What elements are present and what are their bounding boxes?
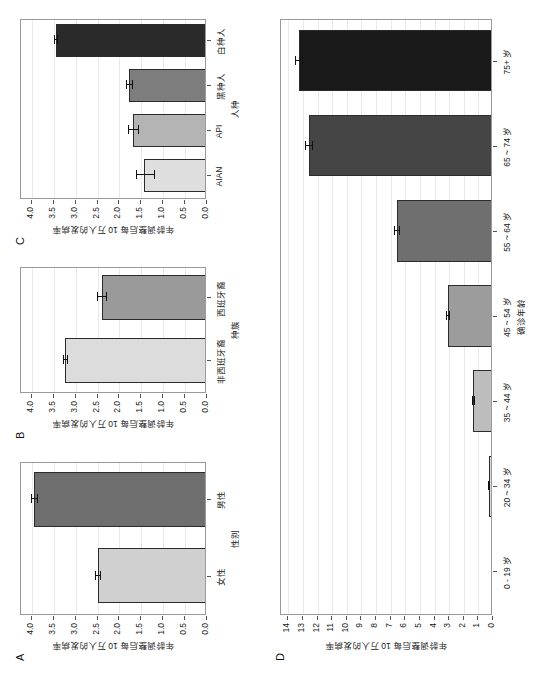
panel-b-plot-area <box>20 267 206 393</box>
y-tick <box>118 616 119 620</box>
panel-d-letter: D <box>274 653 286 661</box>
gridline <box>318 20 319 614</box>
y-tick <box>140 200 141 204</box>
y-tick <box>97 200 98 204</box>
gridline <box>32 463 33 614</box>
error-bar-cap <box>132 81 133 90</box>
error-bar-cap <box>305 141 306 150</box>
x-axis-title: 性别 <box>228 462 240 615</box>
error-bar <box>128 130 138 131</box>
x-axis-title: 人种 <box>228 19 240 199</box>
error-bar-cap <box>37 494 38 503</box>
x-tick <box>493 486 497 487</box>
rotated-figure-wrapper: A 0.00.51.01.52.02.53.03.54.0女性男性性别年龄调整后… <box>0 0 554 679</box>
error-bar-cap <box>128 126 129 135</box>
error-bar-cap <box>302 56 303 65</box>
bar <box>65 338 206 383</box>
x-tick <box>493 316 497 317</box>
error-bar-cap <box>100 571 101 580</box>
x-tick <box>207 361 211 362</box>
y-tick <box>162 616 163 620</box>
panel-c-letter: C <box>14 237 26 245</box>
x-tick-label: AIAN <box>214 154 224 199</box>
error-bar <box>305 145 312 146</box>
error-bar <box>97 297 107 298</box>
x-tick-label: 45 ~ 54 岁 <box>500 274 512 359</box>
gridline <box>347 20 348 614</box>
x-tick <box>493 61 497 62</box>
x-tick-label: 男性 <box>214 462 226 539</box>
y-tick <box>477 616 478 620</box>
panel-b-letter: B <box>14 431 26 439</box>
panel-b: B 0.00.51.01.52.02.53.03.54.0非西班牙裔西班牙裔种族… <box>14 261 250 439</box>
panel-a: A 0.00.51.01.52.02.53.03.54.0女性男性性别年龄调整后… <box>14 456 250 661</box>
panel-a-letter: A <box>14 653 26 661</box>
y-tick <box>118 394 119 398</box>
error-bar-cap <box>446 311 447 320</box>
x-tick-label: 35 ~ 44 岁 <box>500 360 512 445</box>
y-tick <box>97 616 98 620</box>
error-bar-cap <box>449 311 450 320</box>
error-bar-cap <box>295 56 296 65</box>
y-tick <box>360 616 361 620</box>
x-tick-label: 西班牙裔 <box>214 267 226 330</box>
panel-d: D 012345678910111213140 - 19 岁20 ~ 34 岁3… <box>274 13 536 661</box>
y-tick <box>434 616 435 620</box>
y-tick <box>97 394 98 398</box>
error-bar-cap <box>489 481 490 490</box>
y-tick <box>206 616 207 620</box>
y-axis-title: 年龄调整后每 10 万人的发病率 <box>20 419 206 431</box>
y-tick <box>162 200 163 204</box>
y-tick <box>75 200 76 204</box>
gridline <box>361 20 362 614</box>
error-bar-cap <box>31 494 32 503</box>
panel-d-plot-area <box>280 19 492 615</box>
y-tick <box>140 616 141 620</box>
gridline <box>303 20 304 614</box>
panel-c: C 0.00.51.01.52.02.53.03.54.0AIANAPI黑种人白… <box>14 13 250 245</box>
x-tick <box>207 86 211 87</box>
panel-a-plot-area <box>20 462 206 615</box>
y-tick <box>317 616 318 620</box>
y-tick <box>31 394 32 398</box>
bar <box>448 285 492 346</box>
y-tick <box>184 616 185 620</box>
error-bar-cap <box>138 126 139 135</box>
bar <box>299 30 492 91</box>
gridline <box>32 268 33 392</box>
x-axis-title: 确诊年龄 <box>514 19 526 615</box>
bar <box>129 69 206 101</box>
y-tick <box>184 200 185 204</box>
gridline <box>391 20 392 614</box>
y-tick <box>53 394 54 398</box>
x-tick-label: 0 - 19 岁 <box>500 530 512 615</box>
x-tick-label: 白种人 <box>214 19 226 64</box>
error-bar-cap <box>57 36 58 45</box>
x-tick <box>493 146 497 147</box>
bar <box>491 541 492 602</box>
y-tick <box>404 616 405 620</box>
y-tick <box>206 394 207 398</box>
error-bar-cap <box>394 226 395 235</box>
bar <box>133 114 206 146</box>
gridline <box>288 20 289 614</box>
bar <box>34 472 206 527</box>
error-bar-cap <box>95 571 96 580</box>
error-bar-cap <box>136 171 137 180</box>
figure-canvas: A 0.00.51.01.52.02.53.03.54.0女性男性性别年龄调整后… <box>0 0 554 679</box>
error-bar-cap <box>312 141 313 150</box>
bar <box>56 24 206 56</box>
y-tick <box>75 394 76 398</box>
y-tick <box>162 394 163 398</box>
y-tick <box>287 616 288 620</box>
panel-c-plot-area <box>20 19 206 199</box>
x-tick <box>207 41 211 42</box>
bar <box>102 275 206 320</box>
gridline <box>32 20 33 198</box>
error-bar-cap <box>63 356 64 365</box>
error-bar-cap <box>106 293 107 302</box>
bar <box>98 548 206 603</box>
error-bar-cap <box>474 396 475 405</box>
x-tick-label: 65 ~ 74 岁 <box>500 104 512 189</box>
error-bar-cap <box>54 36 55 45</box>
